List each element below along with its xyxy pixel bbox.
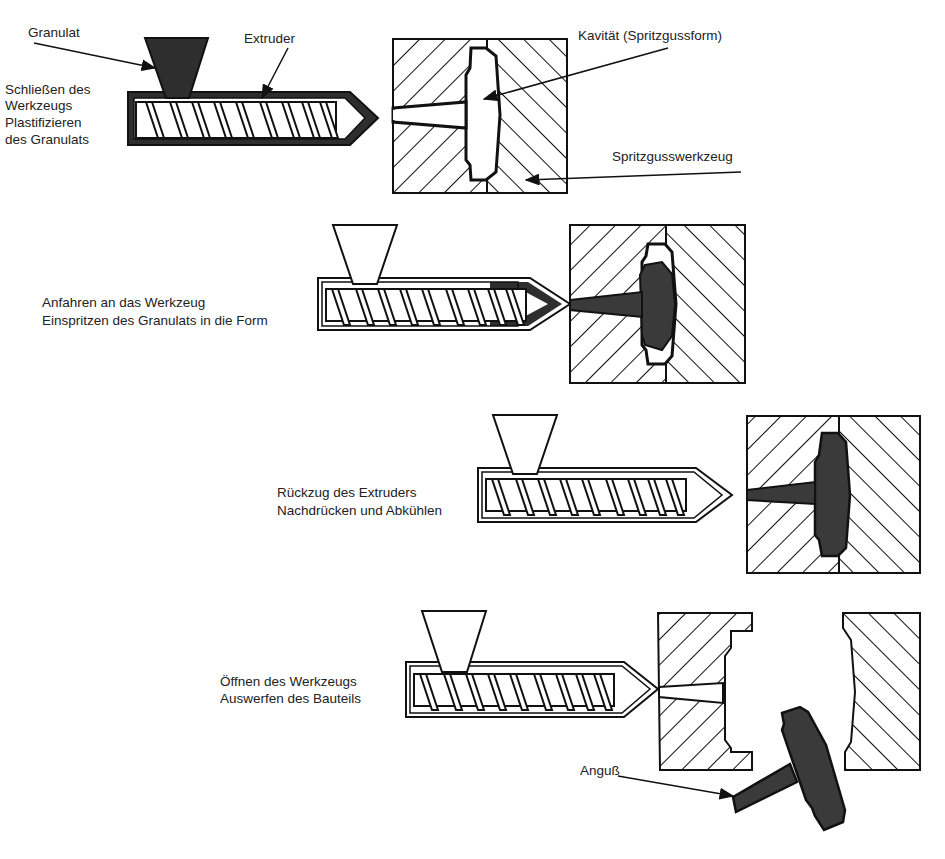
panel-4-open-eject (406, 611, 920, 830)
step-4-line-1: Öffnen des Werkzeugs (220, 673, 357, 690)
extruder-barrel (318, 278, 570, 330)
arrow-extruder (262, 48, 288, 98)
step-1-line-1: Schließen des (5, 81, 91, 98)
hopper-empty (493, 415, 557, 474)
mold-half-right-open (843, 613, 920, 770)
panel-3-retract-cool (478, 415, 920, 573)
label-kavitaet: Kavität (Spritzgussform) (578, 27, 722, 44)
step-2-line-2: Einspritzen des Granulats in die Form (42, 312, 268, 329)
step-3-line-1: Rückzug des Extruders (277, 484, 417, 501)
injection-molding-diagram (0, 0, 945, 859)
step-3-line-2: Nachdrücken und Abkühlen (277, 502, 442, 519)
step-1-line-3: Plastifizieren (5, 114, 82, 131)
mold-closed-empty (393, 39, 567, 193)
label-granulat: Granulat (28, 24, 80, 41)
arrow-anguss (618, 776, 733, 796)
panel-2-injection (318, 225, 745, 383)
label-spritzgusswerkzeug: Spritzgusswerkzeug (612, 148, 733, 165)
label-anguss: Anguß (580, 762, 620, 779)
arrow-granulat (34, 43, 155, 68)
extruder-barrel (478, 468, 732, 522)
hopper-empty (333, 225, 397, 284)
step-1-line-4: des Granulats (5, 131, 89, 148)
mold-closed-filling (570, 225, 745, 383)
mold-half-left-open (658, 613, 752, 770)
label-extruder: Extruder (244, 30, 295, 47)
step-1-line-2: Werkzeugs (5, 97, 72, 114)
step-2-line-1: Anfahren an das Werkzeug (42, 294, 205, 311)
step-4-line-2: Auswerfen des Bauteils (220, 690, 361, 707)
mold-closed-filled (747, 416, 920, 573)
extruder-barrel (128, 92, 378, 145)
panel-1-closing-plasticizing (128, 38, 567, 193)
